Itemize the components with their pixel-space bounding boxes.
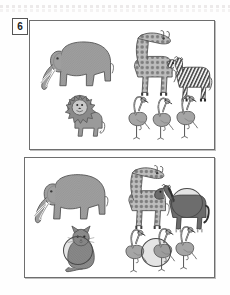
flamingo-icon [150, 95, 176, 141]
top-dotted-rule-secondary [0, 9, 230, 12]
exercise-number-label: 6 [17, 22, 23, 32]
lion-icon [62, 93, 107, 141]
exercise-number-badge: 6 [12, 18, 28, 35]
elephant-icon [38, 37, 116, 97]
altered-scene-panel [24, 157, 215, 278]
flamingo-icon [173, 222, 199, 272]
worksheet-page: 6 [0, 0, 230, 295]
reference-scene-panel [29, 20, 215, 150]
cat-icon [61, 226, 101, 274]
flamingo-icon [174, 91, 200, 141]
flamingo-icon [126, 93, 152, 141]
top-dotted-rule [0, 5, 230, 8]
flamingo-icon [123, 226, 149, 274]
elephant-icon [31, 170, 111, 230]
